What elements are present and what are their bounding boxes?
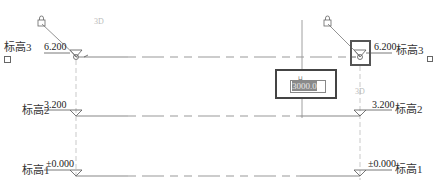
level-elev-left-2[interactable]: 3.200 — [44, 100, 67, 110]
lock-icon[interactable] — [38, 16, 45, 26]
level-line-1[interactable] — [44, 170, 392, 176]
level-name-right-1[interactable]: 标高1 — [395, 164, 423, 175]
level-name-right-3[interactable]: 标高3 — [396, 45, 424, 56]
level-elev-left-3[interactable]: 6.200 — [44, 42, 67, 52]
level-elev-left-1[interactable]: ±0.000 — [46, 159, 74, 169]
level-line-3[interactable] — [44, 50, 392, 60]
lock-icon[interactable] — [324, 16, 331, 26]
level-name-left-3[interactable]: 标高3 — [4, 42, 32, 53]
level-elev-right-1[interactable]: ±0.000 — [368, 159, 396, 169]
level-elev-right-2[interactable]: 3.200 — [372, 100, 395, 110]
checkbox-icon[interactable] — [427, 56, 433, 62]
dimension-value-input[interactable]: 3000.0 — [290, 80, 326, 93]
selected-level-head[interactable] — [350, 40, 371, 66]
3d-tag-left[interactable]: 3D — [94, 18, 104, 26]
level-elev-right-3[interactable]: 6.200 — [374, 42, 397, 52]
3d-tag-right[interactable]: 3D — [355, 88, 365, 96]
level-name-right-2[interactable]: 标高2 — [395, 104, 423, 115]
level-line-2[interactable] — [44, 110, 392, 116]
checkbox-icon[interactable] — [4, 56, 11, 63]
